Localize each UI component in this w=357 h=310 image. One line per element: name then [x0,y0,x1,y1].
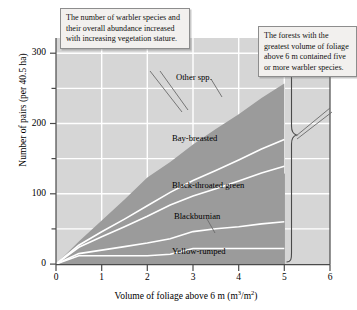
series-label-yellow-rumped: Yellow-rumped [172,246,226,256]
annotation-callout-left: The number of warbler species and their … [60,8,190,49]
series-label-black-throated-green: Black-throated green [172,180,246,190]
series-label-blackburnian: Blackburnian [174,211,220,221]
x-axis-title-mid: /m [241,291,251,301]
x-tick-label-5: 5 [275,272,293,282]
x-axis-title: Volume of foliage above 6 m (m3/m2) [36,289,336,301]
x-ticks [56,265,330,271]
y-tick-label-0: 0 [20,258,46,268]
y-axis-title: Number of pairs (per 40.5 ha) [18,25,28,195]
series-label-other-spp: Other spp. [176,72,212,82]
series-label-bay-breasted: Bay-breasted [172,133,217,143]
x-tick-label-1: 1 [93,272,111,282]
y-ticks [50,53,56,264]
x-tick-label-2: 2 [138,272,156,282]
x-tick-label-6: 6 [321,272,339,282]
x-axis-title-end: ) [254,291,257,301]
x-tick-label-0: 0 [47,272,65,282]
x-tick-label-4: 4 [230,272,248,282]
x-tick-label-3: 3 [184,272,202,282]
x-axis-title-main: Volume of foliage above 6 m (m [115,291,238,301]
annotation-callout-right: The forests with the greatest volume of … [258,26,357,77]
